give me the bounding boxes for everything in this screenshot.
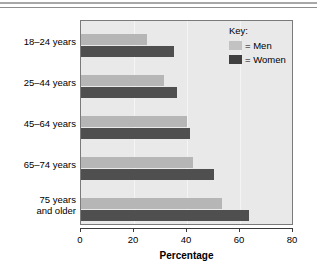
category-label-25-44: 25–44 years — [2, 77, 76, 88]
category-label-45-64: 45–64 years — [2, 118, 76, 129]
bar-chart-figure: 18–24 years 25–44 years 45–64 years 65–7… — [0, 0, 317, 279]
x-tick-label-20: 20 — [118, 234, 148, 245]
legend-item-women: = Women — [229, 53, 291, 65]
bar-men-65-74 — [81, 157, 193, 168]
x-tick-label-80: 80 — [277, 234, 307, 245]
legend-title: Key: — [229, 25, 291, 36]
bar-women-65-74 — [81, 169, 214, 180]
x-tick-label-60: 60 — [224, 234, 254, 245]
legend-item-men: = Men — [229, 39, 291, 51]
category-axis-labels: 18–24 years 25–44 years 45–64 years 65–7… — [0, 20, 76, 225]
category-label-65-74: 65–74 years — [2, 159, 76, 170]
bar-men-75-plus — [81, 198, 222, 209]
x-tick-label-0: 0 — [65, 234, 95, 245]
bar-women-18-24 — [81, 46, 174, 57]
bar-men-25-44 — [81, 75, 164, 86]
legend-label-women: = Women — [245, 54, 286, 65]
x-tick-40 — [186, 228, 187, 232]
x-tick-0 — [80, 228, 81, 232]
x-axis-title: Percentage — [80, 250, 293, 261]
x-tick-80 — [292, 228, 293, 232]
legend-swatch-women-icon — [229, 55, 242, 64]
legend-label-men: = Men — [245, 40, 272, 51]
bar-women-75-plus — [81, 210, 249, 221]
category-label-18-24: 18–24 years — [2, 36, 76, 47]
bar-men-45-64 — [81, 116, 187, 127]
x-tick-label-40: 40 — [171, 234, 201, 245]
chart-legend: Key: = Men = Women — [229, 25, 291, 67]
bar-women-45-64 — [81, 128, 190, 139]
plot-area: Key: = Men = Women — [80, 20, 293, 225]
x-tick-60 — [239, 228, 240, 232]
x-tick-20 — [133, 228, 134, 232]
bar-women-25-44 — [81, 87, 177, 98]
legend-swatch-men-icon — [229, 41, 242, 50]
bar-men-18-24 — [81, 34, 147, 45]
category-label-75-and-older: 75 years and older — [2, 194, 76, 216]
